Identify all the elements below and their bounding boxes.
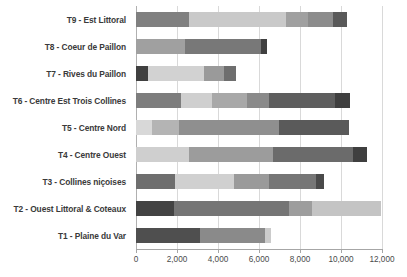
bar-segment[interactable] bbox=[353, 147, 366, 162]
category-axis: T9 - Est LittoralT8 - Coeur de PaillonT7… bbox=[0, 6, 132, 249]
stacked-bar[interactable] bbox=[136, 93, 350, 108]
category-label: T9 - Est Littoral bbox=[0, 6, 132, 33]
x-axis-tick bbox=[177, 249, 178, 253]
stacked-bar[interactable] bbox=[136, 120, 349, 135]
category-label: T4 - Centre Ouest bbox=[0, 141, 132, 168]
bar-segment[interactable] bbox=[212, 93, 247, 108]
plot-area bbox=[136, 6, 382, 249]
bar-row[interactable] bbox=[136, 33, 382, 60]
bar-segment[interactable] bbox=[148, 66, 203, 81]
bar-segment[interactable] bbox=[312, 201, 381, 216]
bar-segment[interactable] bbox=[335, 93, 350, 108]
x-axis-tick bbox=[259, 249, 260, 253]
bar-row[interactable] bbox=[136, 6, 382, 33]
bar-row[interactable] bbox=[136, 60, 382, 87]
category-label: T6 - Centre Est Trois Collines bbox=[0, 87, 132, 114]
stacked-bar[interactable] bbox=[136, 66, 236, 81]
x-axis-tick bbox=[300, 249, 301, 253]
category-label: T2 - Ouest Littoral & Coteaux bbox=[0, 195, 132, 222]
bar-segment[interactable] bbox=[175, 174, 234, 189]
category-label: T3 - Collines niçoises bbox=[0, 168, 132, 195]
x-axis-tick-label: 4,000 bbox=[208, 255, 229, 264]
bar-segment[interactable] bbox=[200, 228, 266, 243]
category-label: T5 - Centre Nord bbox=[0, 114, 132, 141]
bar-row[interactable] bbox=[136, 222, 382, 249]
bar-segment[interactable] bbox=[136, 39, 185, 54]
bar-row[interactable] bbox=[136, 195, 382, 222]
bar-segment[interactable] bbox=[189, 12, 285, 27]
x-axis-tick-label: 2,000 bbox=[167, 255, 188, 264]
stacked-bar[interactable] bbox=[136, 12, 347, 27]
x-axis-tick-label: 12,000 bbox=[369, 255, 394, 264]
stacked-bar[interactable] bbox=[136, 174, 324, 189]
bar-segment[interactable] bbox=[269, 174, 316, 189]
bar-series-container bbox=[136, 6, 382, 249]
bar-segment[interactable] bbox=[136, 174, 175, 189]
stacked-bar[interactable] bbox=[136, 228, 271, 243]
bar-row[interactable] bbox=[136, 168, 382, 195]
bar-segment[interactable] bbox=[279, 120, 349, 135]
bar-segment[interactable] bbox=[136, 147, 189, 162]
stacked-bar-chart: T9 - Est LittoralT8 - Coeur de PaillonT7… bbox=[0, 0, 407, 277]
x-axis-tick bbox=[136, 249, 137, 253]
bar-segment[interactable] bbox=[185, 39, 261, 54]
bar-segment[interactable] bbox=[181, 93, 212, 108]
x-axis-tick bbox=[341, 249, 342, 253]
bar-segment[interactable] bbox=[261, 39, 267, 54]
gridline bbox=[382, 6, 383, 249]
x-axis-tick bbox=[218, 249, 219, 253]
x-axis-tick-labels: 02,0004,0006,0008,00010,00012,000 bbox=[0, 255, 407, 271]
category-label: T1 - Plaine du Var bbox=[0, 222, 132, 249]
bar-segment[interactable] bbox=[247, 93, 270, 108]
bar-segment[interactable] bbox=[286, 12, 309, 27]
bar-segment[interactable] bbox=[265, 228, 271, 243]
x-axis-tick-label: 10,000 bbox=[328, 255, 353, 264]
bar-segment[interactable] bbox=[179, 120, 279, 135]
bar-segment[interactable] bbox=[136, 201, 174, 216]
bar-row[interactable] bbox=[136, 114, 382, 141]
bar-segment[interactable] bbox=[204, 66, 224, 81]
bar-segment[interactable] bbox=[289, 201, 313, 216]
category-label: T8 - Coeur de Paillon bbox=[0, 33, 132, 60]
bar-segment[interactable] bbox=[136, 120, 152, 135]
x-axis-tick-label: 0 bbox=[134, 255, 139, 264]
stacked-bar[interactable] bbox=[136, 39, 267, 54]
bar-segment[interactable] bbox=[273, 147, 353, 162]
bar-segment[interactable] bbox=[269, 93, 335, 108]
bar-segment[interactable] bbox=[234, 174, 269, 189]
bar-segment[interactable] bbox=[136, 93, 181, 108]
bar-segment[interactable] bbox=[174, 201, 289, 216]
bar-segment[interactable] bbox=[333, 12, 347, 27]
bar-row[interactable] bbox=[136, 141, 382, 168]
x-axis-tick bbox=[382, 249, 383, 253]
x-axis-tick-label: 8,000 bbox=[290, 255, 311, 264]
bar-segment[interactable] bbox=[136, 66, 148, 81]
bar-segment[interactable] bbox=[136, 228, 200, 243]
bar-segment[interactable] bbox=[224, 66, 236, 81]
bar-segment[interactable] bbox=[136, 12, 189, 27]
stacked-bar[interactable] bbox=[136, 147, 367, 162]
bar-segment[interactable] bbox=[316, 174, 323, 189]
bar-row[interactable] bbox=[136, 87, 382, 114]
category-label: T7 - Rives du Paillon bbox=[0, 60, 132, 87]
stacked-bar[interactable] bbox=[136, 201, 381, 216]
bar-segment[interactable] bbox=[308, 12, 333, 27]
x-axis-tick-label: 6,000 bbox=[249, 255, 270, 264]
bar-segment[interactable] bbox=[189, 147, 273, 162]
bar-segment[interactable] bbox=[152, 120, 179, 135]
